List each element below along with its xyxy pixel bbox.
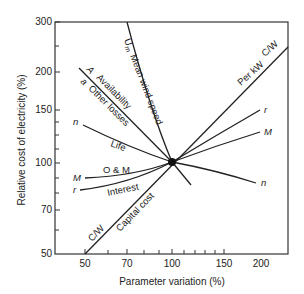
label-a-cap: A xyxy=(84,63,97,76)
x-tick-70: 70 xyxy=(121,258,133,269)
label-n-right: n xyxy=(261,177,266,188)
plot-frame xyxy=(55,22,288,254)
label-m-left: M xyxy=(73,172,81,183)
y-tick-100: 100 xyxy=(35,157,52,168)
label-cw-bottom: C/W xyxy=(86,222,107,243)
x-tick-labels: 50 70 100 150 200 xyxy=(79,258,269,269)
label-r-left: r xyxy=(73,184,77,195)
y-axis xyxy=(55,22,60,230)
y-tick-300: 300 xyxy=(35,16,52,27)
x-tick-100: 100 xyxy=(164,258,181,269)
y-tick-150: 150 xyxy=(35,104,52,115)
y-axis-title: Relative cost of electricity (%) xyxy=(16,74,27,205)
x-axis xyxy=(85,249,224,254)
x-tick-50: 50 xyxy=(79,258,91,269)
label-mean-wind-speed-group: Um Mean wind speed xyxy=(121,37,165,127)
label-om: O & M xyxy=(103,164,130,175)
label-per-kw: Per kW xyxy=(235,58,266,87)
center-point xyxy=(168,158,176,166)
y-tick-50: 50 xyxy=(41,248,53,259)
line-interest xyxy=(80,110,260,190)
y-tick-70: 70 xyxy=(41,204,53,215)
x-tick-150: 150 xyxy=(216,258,233,269)
label-mean-wind: Mean wind speed xyxy=(128,53,165,126)
label-interest: Interest xyxy=(106,181,140,198)
label-a-small: a xyxy=(79,76,91,88)
label-m-right: M xyxy=(264,126,272,137)
x-axis-title: Parameter variation (%) xyxy=(119,276,225,287)
label-cw-top: C/W xyxy=(259,38,280,59)
y-tick-200: 200 xyxy=(35,66,52,77)
sensitivity-chart: 300 200 150 100 70 50 50 70 100 150 200 … xyxy=(0,0,304,294)
label-capital-cost: Capital cost xyxy=(114,190,157,234)
label-n-left: n xyxy=(73,116,78,127)
line-annotations: C/W Per kW r M n Um Mean wind speed A Av… xyxy=(73,37,280,244)
series-lines xyxy=(79,22,288,254)
x-tick-200: 200 xyxy=(253,258,270,269)
y-tick-labels: 300 200 150 100 70 50 xyxy=(35,16,52,259)
label-r-right: r xyxy=(264,104,268,115)
label-life: Life xyxy=(109,138,127,154)
